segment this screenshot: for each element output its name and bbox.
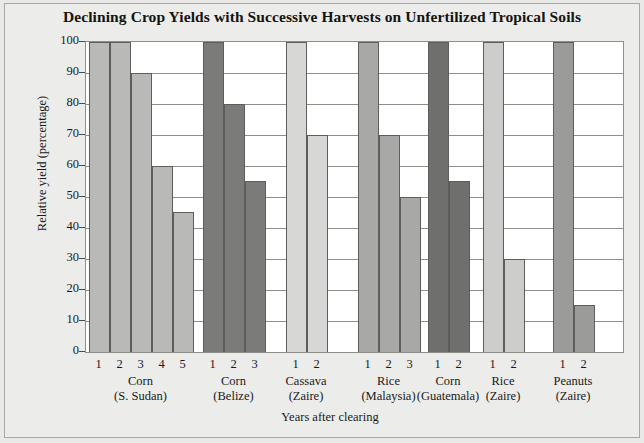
x-tick-label: 2 — [574, 357, 594, 372]
x-tick-label: 3 — [400, 357, 420, 372]
x-tick-label: 3 — [245, 357, 265, 372]
y-tick-mark — [79, 351, 85, 352]
gridline — [86, 135, 623, 136]
bar — [483, 42, 504, 352]
x-tick-label: 2 — [449, 357, 469, 372]
x-axis-title: Years after clearing — [195, 410, 465, 425]
y-tick-mark — [79, 196, 85, 197]
y-tick-label: 100 — [51, 34, 79, 47]
chart-title: Declining Crop Yields with Successive Ha… — [0, 8, 644, 26]
y-tick-label: 50 — [51, 189, 79, 202]
y-tick-label: 90 — [51, 65, 79, 78]
bar — [152, 166, 173, 352]
y-tick-mark — [79, 72, 85, 73]
x-tick-label: 1 — [286, 357, 306, 372]
x-tick-label: 4 — [152, 357, 172, 372]
x-tick-label: 5 — [173, 357, 193, 372]
y-tick-mark — [79, 227, 85, 228]
gridline — [86, 104, 623, 105]
x-tick-label: 1 — [358, 357, 378, 372]
x-group-label-place: (Zaire) — [518, 389, 628, 404]
bar — [504, 259, 525, 352]
bar — [574, 305, 595, 352]
bar — [173, 212, 194, 352]
bar — [379, 135, 400, 352]
bar — [203, 42, 224, 352]
y-tick-label: 80 — [51, 96, 79, 109]
y-tick-mark — [79, 165, 85, 166]
x-tick-label: 1 — [89, 357, 109, 372]
bar — [110, 42, 131, 352]
y-tick-label: 40 — [51, 220, 79, 233]
x-group-label: Peanuts(Zaire) — [518, 374, 628, 404]
bar — [224, 104, 245, 352]
y-tick-mark — [79, 41, 85, 42]
y-tick-mark — [79, 258, 85, 259]
x-tick-label: 2 — [224, 357, 244, 372]
bar — [245, 181, 266, 352]
y-tick-label: 30 — [51, 251, 79, 264]
y-tick-label: 10 — [51, 313, 79, 326]
y-tick-label: 20 — [51, 282, 79, 295]
x-tick-label: 2 — [504, 357, 524, 372]
x-tick-label: 1 — [203, 357, 223, 372]
y-tick-mark — [79, 320, 85, 321]
y-tick-mark — [79, 134, 85, 135]
plot-area — [85, 41, 624, 353]
bar — [553, 42, 574, 352]
bar — [131, 73, 152, 352]
bar — [286, 42, 307, 352]
y-axis-tick-labels: 1009080706050403020100 — [47, 41, 79, 353]
x-tick-label: 1 — [483, 357, 503, 372]
bar — [358, 42, 379, 352]
x-tick-label: 2 — [307, 357, 327, 372]
y-tick-mark — [79, 103, 85, 104]
y-tick-label: 60 — [51, 158, 79, 171]
gridline — [86, 73, 623, 74]
x-tick-label: 1 — [428, 357, 448, 372]
x-tick-label: 1 — [553, 357, 573, 372]
bar — [89, 42, 110, 352]
bar — [307, 135, 328, 352]
x-tick-label: 2 — [379, 357, 399, 372]
x-tick-label: 2 — [110, 357, 130, 372]
y-tick-label: 70 — [51, 127, 79, 140]
y-tick-label: 0 — [51, 344, 79, 357]
x-group-label-crop: Peanuts — [518, 374, 628, 389]
y-tick-mark — [79, 289, 85, 290]
bar — [428, 42, 449, 352]
x-tick-label: 3 — [131, 357, 151, 372]
bar — [400, 197, 421, 352]
bar — [449, 181, 470, 352]
figure-container: Declining Crop Yields with Successive Ha… — [0, 0, 644, 443]
